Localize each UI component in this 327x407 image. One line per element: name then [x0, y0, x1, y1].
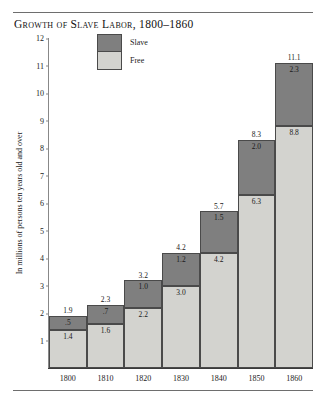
bar-segment-slave-1800[interactable]: .5	[49, 316, 87, 330]
bar-segment-free-1810[interactable]: 1.6	[87, 324, 125, 368]
bar-group-1830[interactable]: 3.01.24.2	[162, 253, 200, 369]
bar-group-1800[interactable]: 1.4.51.9	[49, 316, 87, 368]
y-axis-tick-10: 10	[36, 89, 49, 98]
y-axis-tick-7: 7	[40, 171, 49, 180]
y-axis-tick-11: 11	[36, 61, 49, 70]
y-axis-tick-1: 1	[40, 336, 49, 345]
bar-total-label-1820: 3.2	[124, 272, 162, 280]
plot-area: In millions of persons ten years old and…	[49, 38, 313, 368]
bar-segment-slave-1840[interactable]: 1.5	[200, 211, 238, 252]
y-axis-tick-3: 3	[40, 281, 49, 290]
x-axis-tick-1860: 1860	[275, 374, 313, 383]
bar-group-1820[interactable]: 2.21.03.2	[124, 280, 162, 368]
bar-total-label-1800: 1.9	[49, 307, 87, 315]
bar-group-1840[interactable]: 4.21.55.7	[200, 211, 238, 368]
bar-group-1850[interactable]: 6.32.08.3	[238, 140, 276, 368]
bar-segment-free-1840[interactable]: 4.2	[200, 253, 238, 369]
y-axis-tick-2: 2	[40, 309, 49, 318]
y-axis-tick-9: 9	[40, 116, 49, 125]
bar-segment-slave-1820[interactable]: 1.0	[124, 280, 162, 308]
x-axis-tick-1800: 1800	[49, 374, 87, 383]
x-axis-tick-1850: 1850	[238, 374, 276, 383]
bar-total-label-1850: 8.3	[238, 131, 276, 139]
bar-segment-slave-1860[interactable]: 2.3	[275, 63, 313, 126]
x-axis-line	[48, 368, 313, 369]
x-axis-tick-1830: 1830	[162, 374, 200, 383]
y-axis-tick-12: 12	[36, 34, 49, 43]
bar-segment-free-1830[interactable]: 3.0	[162, 286, 200, 369]
legend-swatch-slave-icon	[97, 34, 122, 52]
bar-segment-slave-1830[interactable]: 1.2	[162, 253, 200, 286]
legend-swatch-free-icon	[97, 52, 122, 70]
bar-segment-slave-1810[interactable]: .7	[87, 305, 125, 324]
bar-total-label-1810: 2.3	[87, 296, 125, 304]
bar-group-1810[interactable]: 1.6.72.3	[87, 305, 125, 368]
bar-total-label-1860: 11.1	[275, 54, 313, 62]
legend-label-free: Free	[130, 56, 144, 65]
y-axis-tick-4: 4	[40, 254, 49, 263]
y-axis-tick-5: 5	[40, 226, 49, 235]
legend-label-slave: Slave	[130, 38, 148, 47]
y-axis-tick-6: 6	[40, 199, 49, 208]
rule-bottom	[13, 390, 313, 391]
bar-segment-free-1820[interactable]: 2.2	[124, 308, 162, 369]
bar-segment-free-1800[interactable]: 1.4	[49, 330, 87, 369]
rule-top	[13, 12, 313, 13]
x-axis-tick-1810: 1810	[87, 374, 125, 383]
bar-segment-free-1850[interactable]: 6.3	[238, 195, 276, 368]
y-axis-label: In millions of persons ten years old and…	[15, 132, 24, 275]
bar-total-label-1840: 5.7	[200, 203, 238, 211]
bar-total-label-1830: 4.2	[162, 244, 200, 252]
bar-group-1860[interactable]: 8.82.311.1	[275, 63, 313, 368]
bar-segment-slave-1850[interactable]: 2.0	[238, 140, 276, 195]
page-title: Growth of Slave Labor, 1800–1860	[14, 18, 194, 30]
x-axis-tick-1820: 1820	[124, 374, 162, 383]
y-axis-tick-8: 8	[40, 144, 49, 153]
bar-segment-free-1860[interactable]: 8.8	[275, 126, 313, 368]
x-axis-tick-1840: 1840	[200, 374, 238, 383]
